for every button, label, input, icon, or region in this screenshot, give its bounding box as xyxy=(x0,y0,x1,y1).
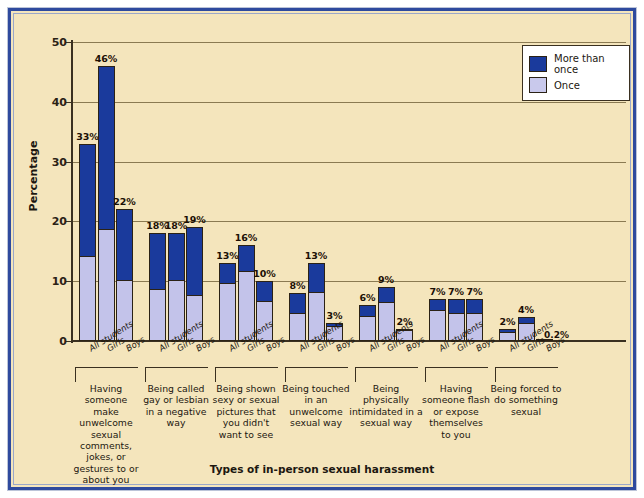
group-description-line: to you xyxy=(419,429,493,440)
group-bracket-4 xyxy=(285,367,348,382)
legend-swatch-once xyxy=(529,77,547,93)
bar-value-label-20: 4% xyxy=(518,304,534,315)
group-description-line: sexual way xyxy=(349,417,423,428)
group-bracket-5 xyxy=(355,367,418,382)
group-description-line: sexual xyxy=(489,406,563,417)
y-axis-line xyxy=(71,40,73,343)
group-bracket-2 xyxy=(145,367,208,382)
group-description-line: about you xyxy=(69,474,143,485)
bar-10[interactable] xyxy=(289,293,306,341)
bar-1[interactable] xyxy=(79,144,96,341)
y-tick-label-0: 0 xyxy=(59,335,67,348)
group-bracket-6 xyxy=(425,367,488,382)
bar-19[interactable] xyxy=(499,329,516,341)
y-tick-mark-40 xyxy=(66,102,73,103)
bar-value-label-9: 10% xyxy=(253,268,276,279)
group-description-line: want to see xyxy=(209,429,283,440)
group-description-line: physically xyxy=(349,394,423,405)
bar-value-label-3: 22% xyxy=(113,196,136,207)
bar-value-label-16: 7% xyxy=(429,286,445,297)
group-description-3: Being shownsexy or sexualpictures thatyo… xyxy=(209,383,283,440)
bar-segment-more-than-once xyxy=(219,263,236,284)
group-description-line: or expose xyxy=(419,406,493,417)
group-description-line: Having xyxy=(69,383,143,394)
group-description-2: Being calledgay or lesbianin a negativew… xyxy=(139,383,213,429)
group-description-line: Being called xyxy=(139,383,213,394)
gridline-40 xyxy=(73,102,626,103)
bar-segment-more-than-once xyxy=(186,227,203,296)
bar-segment-more-than-once xyxy=(238,245,255,272)
group-description-line: intimidated in a xyxy=(349,406,423,417)
bar-5[interactable] xyxy=(168,233,185,341)
legend[interactable]: More than once Once xyxy=(522,45,630,101)
bar-segment-more-than-once xyxy=(429,299,446,311)
bar-value-label-18: 7% xyxy=(466,286,482,297)
bar-segment-more-than-once xyxy=(116,209,133,281)
group-description-line: sexy or sexual xyxy=(209,394,283,405)
bar-segment-more-than-once xyxy=(466,299,483,314)
group-description-line: Being forced to xyxy=(489,383,563,394)
group-description-line: themselves xyxy=(419,417,493,428)
bar-segment-more-than-once xyxy=(98,66,115,230)
gridline-30 xyxy=(73,162,626,163)
bar-segment-more-than-once xyxy=(499,329,516,333)
group-description-line: unwelcome xyxy=(279,406,353,417)
group-bracket-7 xyxy=(495,367,558,382)
group-description-7: Being forced todo somethingsexual xyxy=(489,383,563,417)
chart-frame: Percentage 01020304050 33%46%22%18%18%19… xyxy=(8,8,636,490)
group-description-line: gay or lesbian xyxy=(139,394,213,405)
bar-segment-more-than-once xyxy=(359,305,376,317)
bar-segment-more-than-once xyxy=(518,317,535,324)
group-description-5: Beingphysicallyintimidated in asexual wa… xyxy=(349,383,423,429)
group-description-line: sexual way xyxy=(279,417,353,428)
bar-value-label-10: 8% xyxy=(289,280,305,291)
y-tick-label-20: 20 xyxy=(52,215,67,228)
y-tick-label-50: 50 xyxy=(52,36,67,49)
y-tick-label-10: 10 xyxy=(52,275,67,288)
chart-page: Percentage 01020304050 33%46%22%18%18%19… xyxy=(0,0,644,498)
legend-item-more-than-once[interactable]: More than once xyxy=(529,53,623,75)
y-tick-mark-30 xyxy=(66,162,73,163)
bar-segment-more-than-once xyxy=(79,144,96,258)
bar-4[interactable] xyxy=(149,233,166,341)
bar-value-label-2: 46% xyxy=(95,53,118,64)
y-tick-label-30: 30 xyxy=(52,155,67,168)
bar-value-label-8: 16% xyxy=(235,232,258,243)
group-description-line: jokes, or xyxy=(69,451,143,462)
bar-16[interactable] xyxy=(429,299,446,341)
y-axis-title: Percentage xyxy=(27,141,40,212)
bar-7[interactable] xyxy=(219,263,236,341)
bar-segment-more-than-once xyxy=(168,233,185,281)
group-description-line: Being touched xyxy=(279,383,353,394)
bar-value-label-11: 13% xyxy=(305,250,328,261)
group-description-4: Being touchedin anunwelcomesexual way xyxy=(279,383,353,429)
bar-value-label-1: 33% xyxy=(76,131,99,142)
group-description-line: comments, xyxy=(69,440,143,451)
group-description-line: way xyxy=(139,417,213,428)
bar-segment-more-than-once xyxy=(289,293,306,314)
legend-item-once[interactable]: Once xyxy=(529,77,623,93)
bar-8[interactable] xyxy=(238,245,255,341)
group-bracket-3 xyxy=(215,367,278,382)
bar-value-label-7: 13% xyxy=(216,250,239,261)
group-bracket-1 xyxy=(75,367,138,382)
group-description-line: sexual xyxy=(69,429,143,440)
bar-segment-more-than-once xyxy=(149,233,166,290)
group-description-line: do something xyxy=(489,394,563,405)
group-description-line: in a negative xyxy=(139,406,213,417)
group-description-line: you didn't xyxy=(209,417,283,428)
bar-value-label-14: 9% xyxy=(378,274,394,285)
group-description-line: in an xyxy=(279,394,353,405)
group-description-line: Being xyxy=(349,383,423,394)
group-description-line: someone flash xyxy=(419,394,493,405)
bar-segment-more-than-once xyxy=(256,281,273,302)
bar-value-label-6: 19% xyxy=(183,214,206,225)
group-description-line: Being shown xyxy=(209,383,283,394)
group-description-line: pictures that xyxy=(209,406,283,417)
legend-label-once: Once xyxy=(554,80,580,91)
bar-13[interactable] xyxy=(359,305,376,341)
legend-label-more-than-once: More than once xyxy=(554,53,623,75)
gridline-50 xyxy=(73,42,626,43)
bar-2[interactable] xyxy=(98,66,115,341)
x-axis-title: Types of in-person sexual harassment xyxy=(11,463,633,475)
